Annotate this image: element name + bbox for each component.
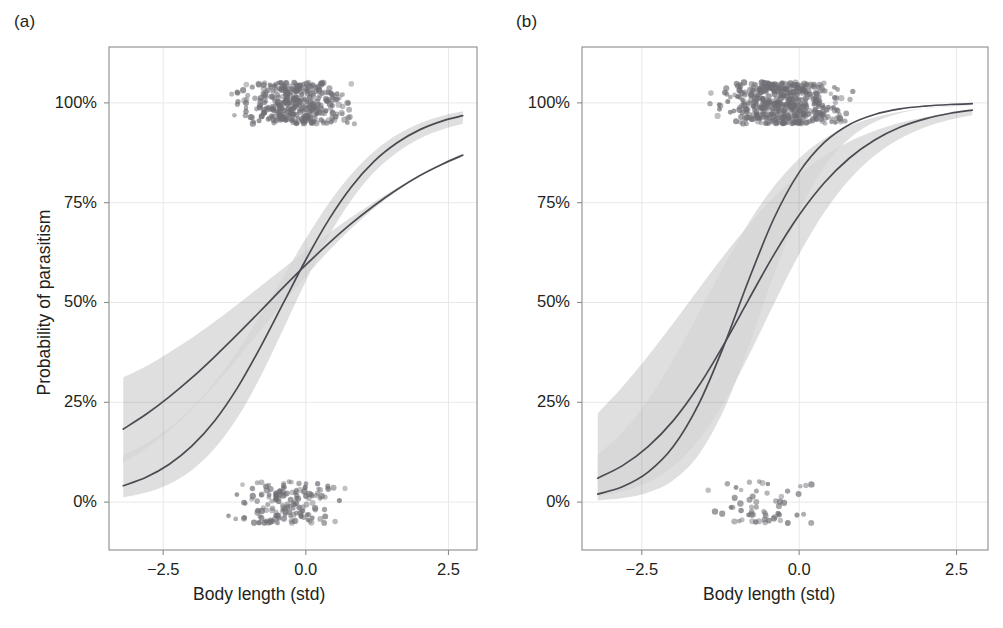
- data-point: [265, 502, 270, 507]
- data-point: [801, 112, 806, 117]
- data-point: [265, 87, 271, 93]
- data-point: [345, 120, 350, 125]
- data-point: [285, 501, 290, 506]
- data-point: [749, 518, 755, 524]
- data-point: [761, 114, 766, 119]
- data-point: [828, 91, 833, 96]
- data-point: [754, 505, 759, 510]
- data-point: [781, 110, 786, 115]
- data-point: [255, 508, 261, 514]
- data-point: [288, 116, 293, 121]
- figure-background: [0, 0, 1003, 628]
- panel-label-b: (b): [516, 12, 537, 32]
- data-point: [250, 121, 256, 127]
- data-point: [747, 115, 753, 121]
- data-point: [808, 481, 814, 487]
- x-tick-label-a-2: 2.5: [408, 560, 488, 579]
- data-point: [850, 89, 855, 94]
- data-point: [316, 486, 321, 491]
- data-point: [843, 110, 849, 116]
- parasitism-figure: [0, 0, 1003, 628]
- data-point: [294, 88, 300, 94]
- data-point: [299, 513, 304, 518]
- data-point: [308, 519, 314, 525]
- data-point: [332, 519, 338, 525]
- data-point: [310, 500, 316, 506]
- data-point: [737, 519, 742, 524]
- data-point: [340, 92, 345, 97]
- data-point: [732, 495, 738, 501]
- data-point: [262, 80, 267, 85]
- data-point: [240, 87, 246, 93]
- data-point: [303, 485, 308, 490]
- data-point: [345, 115, 351, 121]
- data-point: [754, 112, 760, 118]
- data-point: [717, 102, 722, 107]
- data-point: [268, 518, 274, 524]
- data-point: [738, 508, 744, 514]
- data-point: [744, 107, 749, 112]
- data-point: [313, 507, 318, 512]
- data-point: [232, 113, 237, 118]
- data-point: [753, 499, 759, 505]
- x-tick-label-b-1: 0.0: [759, 560, 839, 579]
- data-point: [758, 87, 763, 92]
- data-point: [801, 512, 806, 517]
- data-point: [712, 508, 718, 514]
- x-tick-label-a-0: −2.5: [123, 560, 203, 579]
- data-point: [312, 115, 318, 121]
- data-point: [315, 111, 320, 116]
- data-point: [270, 114, 275, 119]
- data-point: [288, 514, 293, 519]
- data-point: [791, 114, 796, 119]
- data-point: [798, 484, 803, 489]
- data-point: [261, 505, 266, 510]
- data-point: [281, 483, 286, 488]
- data-point: [833, 100, 838, 105]
- data-point: [779, 494, 785, 500]
- data-point: [297, 505, 303, 511]
- data-point: [283, 509, 289, 515]
- data-point: [751, 101, 756, 106]
- data-point: [331, 93, 337, 99]
- data-point: [276, 499, 281, 504]
- data-point: [255, 480, 260, 485]
- data-point: [793, 119, 798, 124]
- data-point: [786, 96, 792, 102]
- data-point: [751, 512, 756, 517]
- data-point: [794, 512, 799, 517]
- data-point: [293, 82, 299, 88]
- data-point: [305, 89, 310, 94]
- data-point: [790, 103, 796, 109]
- data-point: [744, 121, 749, 126]
- data-point: [830, 116, 835, 121]
- data-point: [326, 85, 332, 91]
- data-point: [296, 481, 301, 486]
- panel-label-a: (a): [14, 12, 35, 32]
- data-point: [271, 107, 277, 113]
- data-point: [233, 516, 238, 521]
- data-point: [837, 112, 842, 117]
- data-point: [785, 488, 790, 493]
- data-point: [813, 97, 819, 103]
- data-point: [723, 85, 729, 91]
- data-point: [275, 521, 280, 526]
- data-point: [764, 490, 769, 495]
- data-point: [763, 120, 769, 126]
- data-point: [803, 120, 809, 126]
- data-point: [268, 486, 274, 492]
- data-point: [284, 92, 289, 97]
- data-point: [256, 520, 261, 525]
- data-point: [309, 83, 314, 88]
- data-point: [273, 118, 279, 124]
- data-point: [769, 85, 775, 91]
- data-point: [263, 99, 268, 104]
- data-point: [766, 518, 772, 524]
- data-point: [243, 100, 249, 106]
- data-point: [725, 481, 730, 486]
- data-point: [781, 119, 787, 125]
- data-point: [766, 93, 772, 99]
- data-point: [259, 113, 265, 119]
- data-point: [330, 110, 336, 116]
- data-point: [705, 488, 710, 493]
